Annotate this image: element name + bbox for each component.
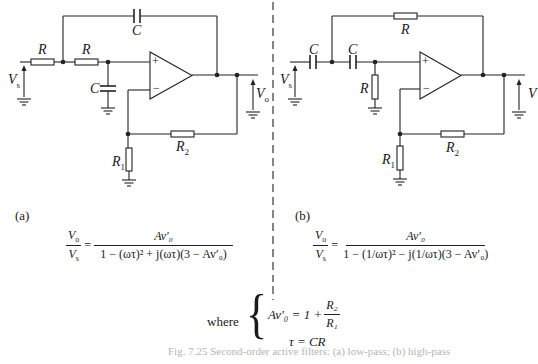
label-minus-b: − [423, 82, 430, 94]
label-plus-a: + [152, 55, 159, 67]
ground-icon [101, 108, 115, 114]
ground-icon [122, 180, 136, 186]
resistor-r-b-feedback [394, 13, 417, 19]
transfer-function-a: Vo Vs = Av′₀ 1 − (ωτ)² + j(ωτ)(3 − Av′₀) [66, 228, 233, 264]
resistor-r1-a [126, 148, 132, 171]
label-r1-a: R1 [112, 155, 125, 172]
ground-icon [368, 108, 382, 114]
left-brace: { [246, 287, 267, 342]
label-plus-b: + [422, 55, 429, 67]
where-label: where [207, 314, 239, 330]
label-c-b1: C [309, 43, 318, 57]
label-r-b-feedback: R [401, 23, 410, 37]
ground-icon [17, 99, 31, 105]
label-r-a1: R [38, 43, 47, 57]
circuit-b [288, 13, 526, 185]
rhs-fraction-a: Av′₀ 1 − (ωτ)² + j(ωτ)(3 − Av′₀) [94, 229, 233, 262]
rhs-fraction-b: Av′₀ 1 − (1/ωτ)² − j(1/ωτ)(3 − Av′₀) [341, 229, 490, 262]
transfer-function-b: Vo Vs = Av′₀ 1 − (1/ωτ)² − j(1/ωτ)(3 − A… [313, 228, 490, 264]
resistor-r-a2 [75, 59, 98, 65]
figure-caption: Fig. 7.25 Second-order active filters: (… [168, 345, 450, 357]
label-r-b-shunt: R [360, 82, 369, 96]
resistor-r2-a [171, 131, 194, 137]
resistor-r-b-shunt [372, 75, 378, 99]
ground-icon [288, 99, 302, 105]
resistor-r-a1 [31, 59, 54, 65]
label-vs-a: Vs [8, 73, 20, 90]
label-c-a-shunt: C [90, 82, 99, 96]
lhs-fraction-b: Vo Vs [313, 228, 328, 264]
label-vo-a: Vo [256, 87, 269, 104]
label-r1-b: R1 [382, 153, 395, 170]
resistor-r2-b [441, 131, 464, 137]
label-r2-a: R2 [176, 140, 189, 157]
label-r2-b: R2 [446, 141, 459, 158]
ground-icon [246, 112, 260, 118]
ground-icon [512, 112, 526, 118]
label-c-a-feedback: C [132, 24, 141, 38]
label-c-b2: C [348, 43, 357, 57]
label-vo-b: V [528, 87, 537, 101]
label-r-a2: R [82, 43, 91, 57]
label-minus-a: − [153, 82, 160, 94]
panel-tag-b: (b) [295, 208, 310, 224]
resistor-r1-b [397, 146, 403, 170]
label-vs-b: Vs [280, 73, 292, 90]
panel-tag-a: (a) [15, 208, 29, 224]
where-line-1: Av′₀ = 1 + R₂ R₁ [268, 298, 340, 331]
lhs-fraction-a: Vo Vs [66, 228, 81, 264]
ground-icon [393, 179, 407, 185]
